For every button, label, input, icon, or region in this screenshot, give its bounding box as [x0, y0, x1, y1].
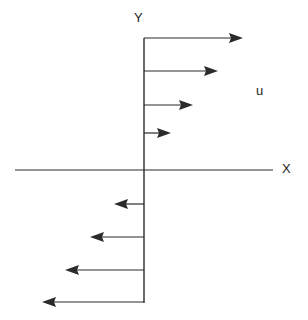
velocity-arrow-right-4 [144, 128, 171, 138]
diagram-canvas [0, 0, 308, 320]
velocity-arrow-left-3 [65, 265, 144, 275]
velocity-label: u [256, 84, 263, 97]
x-axis-label: X [282, 162, 291, 175]
velocity-arrow-right-3 [144, 100, 193, 110]
y-axis-label: Y [134, 11, 143, 24]
velocity-arrow-left-4 [42, 297, 144, 307]
velocity-arrow-left-1 [114, 199, 144, 209]
velocity-arrows-positive [144, 33, 243, 138]
velocity-arrow-right-2 [144, 66, 218, 76]
velocity-arrows-negative [42, 199, 144, 307]
velocity-arrow-right-1 [144, 33, 243, 43]
velocity-profile-diagram: Y X u [0, 0, 308, 320]
velocity-arrow-left-2 [90, 232, 144, 242]
